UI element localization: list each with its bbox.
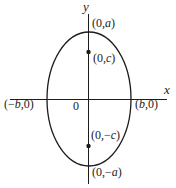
top-focus-dot <box>86 50 90 54</box>
top-vertex-label: (0,a) <box>92 17 115 30</box>
right-vertex-label: (b,0) <box>135 98 158 111</box>
left-vertex-post: ,0) <box>21 97 34 111</box>
top-focus-post: ) <box>111 51 115 65</box>
top-vertex-post: ) <box>111 16 115 30</box>
diagram-canvas <box>0 0 176 188</box>
top-focus-pre: (0, <box>93 51 106 65</box>
origin-label: 0 <box>73 100 79 113</box>
bottom-focus-post: ) <box>116 128 120 142</box>
bottom-vertex-pre: (0,− <box>92 165 112 179</box>
bottom-focus-pre: (0,− <box>91 128 111 142</box>
ellipse-foci-diagram: y x 0 (0,a) (0,c) (−b,0) (b,0) (0,−c) (0… <box>0 0 176 188</box>
bottom-focus-label: (0,−c) <box>91 129 120 142</box>
left-vertex-label: (−b,0) <box>4 98 34 111</box>
bottom-focus-dot <box>86 144 90 148</box>
top-focus-label: (0,c) <box>93 52 115 65</box>
bottom-vertex-label: (0,−a) <box>92 166 122 179</box>
top-vertex-pre: (0, <box>92 16 105 30</box>
x-axis-label: x <box>164 83 170 96</box>
right-vertex-post: ,0) <box>145 97 158 111</box>
left-vertex-pre: (− <box>4 97 15 111</box>
bottom-vertex-post: ) <box>118 165 122 179</box>
y-axis-label: y <box>83 0 89 13</box>
